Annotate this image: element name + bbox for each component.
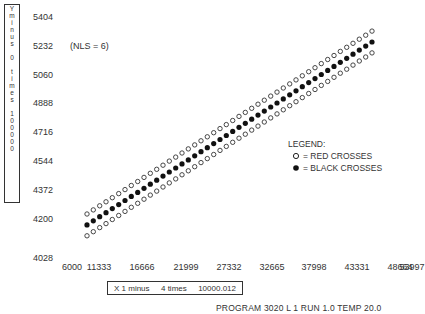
data-point xyxy=(212,131,216,135)
data-point xyxy=(110,217,114,221)
data-point xyxy=(148,171,152,175)
data-point xyxy=(357,37,361,41)
data-point xyxy=(98,204,102,208)
data-point xyxy=(161,163,165,167)
data-point xyxy=(218,126,222,130)
data-point xyxy=(326,57,330,61)
data-point xyxy=(211,141,216,146)
data-point xyxy=(193,143,197,147)
data-point xyxy=(110,196,114,200)
data-point xyxy=(97,214,102,219)
data-point xyxy=(230,129,235,134)
open-circle-icon xyxy=(292,152,300,160)
data-point xyxy=(300,84,305,89)
data-point xyxy=(129,183,133,187)
legend: LEGEND: = RED CROSSES = BLACK CROSSES xyxy=(288,138,382,174)
data-point xyxy=(294,100,298,104)
data-point xyxy=(135,190,140,195)
data-point xyxy=(287,92,292,97)
data-point xyxy=(281,96,286,101)
data-point xyxy=(268,104,273,109)
data-point xyxy=(307,91,311,95)
data-point xyxy=(307,70,311,74)
data-point xyxy=(275,112,279,116)
data-point xyxy=(288,104,292,108)
data-point xyxy=(129,194,134,199)
data-point xyxy=(205,135,209,139)
data-point xyxy=(293,88,298,93)
legend-label-black: = BLACK CROSSES xyxy=(303,162,382,174)
data-point xyxy=(364,55,368,59)
data-point xyxy=(231,140,235,144)
data-point xyxy=(85,212,89,216)
x-label-part-1: X 1 minus xyxy=(114,284,150,293)
data-point xyxy=(275,90,279,94)
data-point xyxy=(160,174,165,179)
data-point xyxy=(338,49,342,53)
data-point xyxy=(363,44,368,49)
data-point xyxy=(319,61,323,65)
data-point xyxy=(255,113,260,118)
data-point xyxy=(345,45,349,49)
data-point xyxy=(103,210,108,215)
data-point xyxy=(129,205,133,209)
program-footer: PROGRAM 3020 L 1 RUN 1.0 TEMP 20.0 xyxy=(216,303,381,313)
data-point xyxy=(313,66,317,70)
data-point xyxy=(104,221,108,225)
data-point xyxy=(136,201,140,205)
data-point xyxy=(104,200,108,204)
data-point xyxy=(256,102,260,106)
data-point xyxy=(231,118,235,122)
data-point xyxy=(281,108,285,112)
data-point xyxy=(148,182,153,187)
data-point xyxy=(288,82,292,86)
data-point xyxy=(212,152,216,156)
legend-title: LEGEND: xyxy=(288,138,382,150)
data-point xyxy=(117,213,121,217)
data-point xyxy=(224,144,228,148)
data-point xyxy=(174,155,178,159)
data-point xyxy=(123,187,127,191)
data-point xyxy=(186,169,190,173)
data-point xyxy=(192,153,197,158)
data-point xyxy=(167,181,171,185)
data-point xyxy=(364,33,368,37)
data-point xyxy=(294,78,298,82)
data-point xyxy=(154,178,159,183)
data-point xyxy=(319,83,323,87)
data-point xyxy=(142,197,146,201)
data-point xyxy=(351,41,355,45)
data-point xyxy=(269,116,273,120)
data-point xyxy=(142,175,146,179)
data-point xyxy=(262,98,266,102)
data-point xyxy=(205,156,209,160)
data-point xyxy=(300,74,304,78)
data-point xyxy=(179,161,184,166)
data-point xyxy=(243,110,247,114)
data-point xyxy=(224,133,229,138)
data-point xyxy=(237,136,241,140)
data-point xyxy=(117,191,121,195)
data-point xyxy=(85,234,89,238)
data-point xyxy=(180,151,184,155)
data-point xyxy=(331,64,336,69)
data-point xyxy=(351,63,355,67)
legend-label-red: = RED CROSSES xyxy=(303,150,372,162)
data-point xyxy=(369,39,374,44)
data-point xyxy=(141,186,146,191)
data-point xyxy=(155,189,159,193)
data-point xyxy=(256,124,260,128)
data-point xyxy=(250,106,254,110)
data-point xyxy=(148,193,152,197)
data-point xyxy=(357,59,361,63)
data-point xyxy=(91,230,95,234)
data-point xyxy=(136,179,140,183)
data-point xyxy=(350,52,355,57)
filled-circle-icon xyxy=(292,164,300,172)
data-point xyxy=(122,198,127,203)
data-point xyxy=(237,114,241,118)
data-point xyxy=(205,145,210,150)
data-point xyxy=(98,225,102,229)
data-point xyxy=(193,165,197,169)
data-point xyxy=(325,68,330,73)
